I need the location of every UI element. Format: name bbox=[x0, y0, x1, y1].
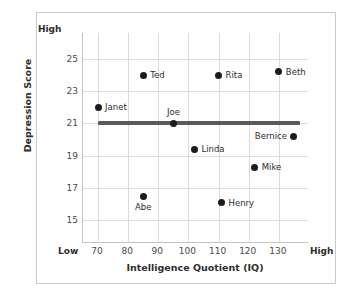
y-tick-label: 19 bbox=[67, 151, 78, 161]
gridline-vertical bbox=[128, 33, 129, 242]
data-point-label: Beth bbox=[286, 67, 306, 77]
gridline-vertical bbox=[219, 33, 220, 242]
gridline-vertical bbox=[98, 33, 99, 242]
data-point[interactable] bbox=[275, 68, 282, 75]
data-point-label: Henry bbox=[229, 198, 255, 208]
x-tick-label: 110 bbox=[209, 246, 226, 256]
data-point-label: Abe bbox=[135, 202, 151, 212]
reference-line bbox=[98, 121, 300, 125]
gridline-vertical bbox=[158, 33, 159, 242]
gridline-horizontal bbox=[83, 188, 308, 189]
x-tick-label: 130 bbox=[269, 246, 286, 256]
gridline-horizontal bbox=[83, 156, 308, 157]
x-axis-high-label: High bbox=[310, 246, 333, 256]
data-point-label: Rita bbox=[226, 70, 243, 80]
data-point[interactable] bbox=[251, 164, 258, 171]
data-point[interactable] bbox=[140, 193, 147, 200]
y-tick-label: 17 bbox=[67, 183, 78, 193]
gridline-horizontal bbox=[83, 59, 308, 60]
data-point-label: Mike bbox=[262, 162, 282, 172]
data-point-label: Bernice bbox=[255, 131, 287, 141]
data-point[interactable] bbox=[218, 199, 225, 206]
data-point[interactable] bbox=[290, 133, 297, 140]
y-tick-label: 15 bbox=[67, 215, 78, 225]
y-tick-label: 23 bbox=[67, 86, 78, 96]
y-tick-label: 25 bbox=[67, 54, 78, 64]
y-axis-tick-labels: 151719212325 bbox=[36, 33, 78, 243]
x-axis-tick-labels: 708090100110120130 bbox=[82, 246, 308, 260]
data-point-label: Janet bbox=[105, 102, 127, 112]
data-point[interactable] bbox=[191, 146, 198, 153]
x-tick-label: 100 bbox=[179, 246, 196, 256]
gridline-horizontal bbox=[83, 220, 308, 221]
data-point[interactable] bbox=[95, 104, 102, 111]
data-point-label: Joe bbox=[167, 107, 180, 117]
data-point[interactable] bbox=[140, 72, 147, 79]
y-axis-title: Depression Score bbox=[22, 31, 33, 181]
data-point[interactable] bbox=[170, 120, 177, 127]
gridline-horizontal bbox=[83, 91, 308, 92]
y-tick-label: 21 bbox=[67, 118, 78, 128]
data-point-label: Linda bbox=[201, 144, 224, 154]
x-tick-label: 70 bbox=[91, 246, 102, 256]
x-tick-label: 90 bbox=[152, 246, 163, 256]
scatter-plot-figure: High Low High 151719212325 7080901001101… bbox=[0, 0, 347, 308]
plot-area: JanetTedJoeRitaBethBerniceLindaMikeAbeHe… bbox=[82, 33, 308, 243]
data-point-label: Ted bbox=[150, 70, 164, 80]
gridline-vertical bbox=[249, 33, 250, 242]
x-axis-title: Intelligence Quotient (IQ) bbox=[82, 262, 308, 273]
x-tick-label: 120 bbox=[239, 246, 256, 256]
data-point[interactable] bbox=[215, 72, 222, 79]
x-axis-low-label: Low bbox=[58, 246, 78, 256]
x-tick-label: 80 bbox=[121, 246, 132, 256]
gridline-vertical bbox=[188, 33, 189, 242]
